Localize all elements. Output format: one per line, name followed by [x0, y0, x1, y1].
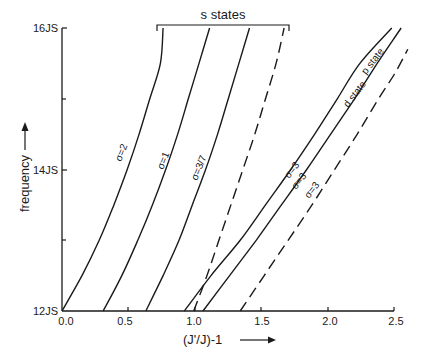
s-states-bracket	[157, 25, 289, 31]
y-tick-label-14: 14JS	[33, 164, 58, 176]
y-axis-arrow-icon	[22, 122, 29, 150]
s-states-label: s states	[201, 7, 246, 22]
curve-3	[194, 28, 284, 311]
y-axis-title: frequency	[17, 154, 32, 212]
y-tick-label-16: 16JS	[33, 22, 58, 34]
x-tick-label-20: 2.0	[322, 315, 337, 327]
x-tick-label-05: 0.5	[117, 315, 132, 327]
x-tick-label-0: 0.0	[58, 315, 73, 327]
label-sigma-3-dashed: σ=3	[302, 179, 322, 200]
curve-6	[240, 49, 408, 311]
curve-0	[62, 28, 163, 311]
x-tick-label-15: 1.5	[254, 315, 269, 327]
label-d-state: d state	[341, 78, 368, 109]
frequency-vs-j-ratio-chart: 16JS 14JS 12JS 0.0 0.5 1.0 1.5 2.0 2.5 (…	[0, 0, 428, 351]
x-axis-arrow-icon	[240, 337, 276, 344]
x-tick-label-10: 1.0	[186, 315, 201, 327]
x-tick-label-25: 2.5	[388, 315, 403, 327]
label-sigma-2: σ=2	[113, 142, 130, 163]
curves	[62, 28, 408, 311]
label-sigma-1: σ=1	[155, 150, 172, 171]
x-axis-title: (J'/J)-1	[183, 332, 222, 347]
y-tick-label-12: 12JS	[33, 305, 58, 317]
